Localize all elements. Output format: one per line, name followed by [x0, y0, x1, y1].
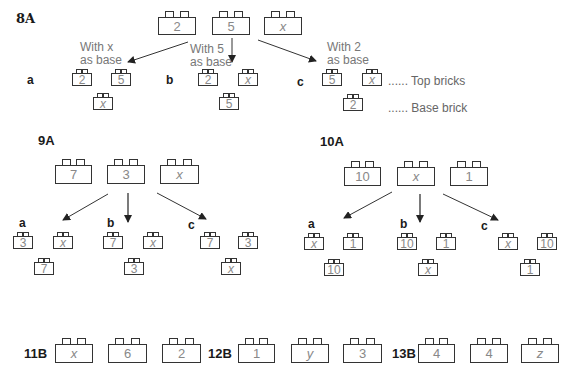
stud [419, 161, 428, 167]
brick-value: x [100, 98, 106, 110]
option-letter-10a-a: a [308, 217, 315, 231]
brick-value: 7 [207, 237, 214, 249]
brick-value: 2 [173, 19, 180, 34]
top-brick-9a-a-1: 3 [13, 236, 33, 249]
brick-value: 5 [226, 98, 233, 110]
stud [229, 93, 235, 97]
base-brick-10a-b: x [418, 263, 438, 276]
brick-value: 5 [118, 74, 125, 86]
stud [543, 338, 552, 344]
exercise-label-8a: 8A [16, 11, 35, 26]
brick-value: 10 [540, 238, 553, 250]
brick-value: x [425, 264, 431, 276]
brick-9a-3: x [160, 165, 199, 184]
brick-8a-3: x [264, 17, 302, 35]
brick-11b-2: 6 [108, 344, 147, 363]
stud [372, 69, 378, 73]
brick-value: 1 [350, 238, 357, 250]
base-brick-10a-a: 10 [324, 263, 344, 276]
stud [472, 161, 481, 167]
top-brick-10a-b-2: 1 [436, 237, 456, 250]
stud [271, 11, 280, 17]
brick-value: 4 [485, 346, 492, 361]
brick-value: 10 [355, 169, 369, 184]
stud [62, 338, 71, 344]
option-letter-9a-b: b [107, 216, 114, 230]
brick-11b-1: x [55, 344, 93, 363]
stud [63, 232, 69, 236]
top-brick-8a-a-1: 2 [72, 73, 92, 86]
brick-value: x [228, 263, 234, 275]
exercise-label-9a: 9A [38, 133, 55, 148]
stud [62, 159, 71, 165]
stud [366, 338, 375, 344]
stud [165, 11, 174, 17]
stud [115, 338, 124, 344]
stud [153, 232, 159, 236]
stud [23, 232, 29, 236]
brick-value: 10 [400, 238, 413, 250]
brick-value: x [71, 346, 78, 361]
stud [334, 259, 340, 263]
stud [131, 338, 140, 344]
brick-value: 10 [327, 264, 340, 276]
brick-8a-2: 5 [212, 17, 250, 35]
stud [492, 338, 501, 344]
brick-value: 1 [443, 238, 450, 250]
stud [77, 338, 86, 344]
note-8a-b-line2: as base [190, 56, 232, 68]
brick-value: 3 [359, 346, 366, 361]
brick-value: x [505, 238, 511, 250]
brick-value: 5 [329, 74, 336, 86]
brick-value: 5 [227, 19, 234, 34]
stud [457, 161, 466, 167]
stud [183, 159, 192, 165]
brick-value: x [413, 169, 420, 184]
brick-value: 2 [205, 74, 212, 86]
stud [208, 69, 214, 73]
stud [313, 338, 322, 344]
stud [113, 232, 119, 236]
brick-10a-2: x [397, 167, 435, 186]
base-brick-10a-c: 1 [520, 263, 540, 276]
brick-value: 1 [253, 346, 260, 361]
stud [528, 338, 537, 344]
stud [446, 233, 452, 237]
top-brick-10a-c-1: x [498, 237, 518, 250]
stud [508, 233, 514, 237]
brick-13b-1: 4 [418, 344, 455, 363]
exercise-label-10a: 10A [320, 134, 344, 149]
top-brick-10a-a-2: 1 [343, 237, 363, 250]
note-8a-b-line1: With 5 [190, 43, 224, 55]
legend-top-bricks: ...... Top bricks [388, 75, 465, 87]
option-letter-9a-a: a [19, 216, 26, 230]
brick-value: 7 [70, 167, 77, 182]
stud [121, 69, 127, 73]
brick-value: 3 [131, 263, 138, 275]
option-letter-9a-c: c [188, 218, 195, 232]
stud [129, 159, 138, 165]
brick-value: x [280, 19, 287, 34]
top-brick-9a-a-2: x [53, 236, 73, 249]
brick-12b-2: y [291, 344, 329, 363]
stud [353, 94, 359, 98]
brick-value: z [537, 346, 544, 361]
stud [248, 69, 254, 73]
top-brick-9a-b-1: 7 [103, 236, 123, 249]
stud [298, 338, 307, 344]
stud [185, 338, 194, 344]
stud [180, 11, 189, 17]
brick-value: x [369, 74, 375, 86]
brick-10a-1: 10 [344, 167, 381, 186]
top-brick-8a-b-1: 2 [198, 73, 218, 86]
stud [428, 259, 434, 263]
top-brick-10a-c-2: 10 [537, 237, 557, 250]
top-brick-8a-c-1: 5 [322, 73, 342, 86]
exercise-label-13b: 13B [392, 346, 416, 361]
brick-11b-3: 2 [162, 344, 201, 363]
base-brick-9a-c: x [221, 262, 241, 275]
stud [219, 11, 228, 17]
base-brick-8a-b: 5 [219, 97, 239, 110]
stud [477, 338, 486, 344]
brick-value: 7 [110, 237, 117, 249]
